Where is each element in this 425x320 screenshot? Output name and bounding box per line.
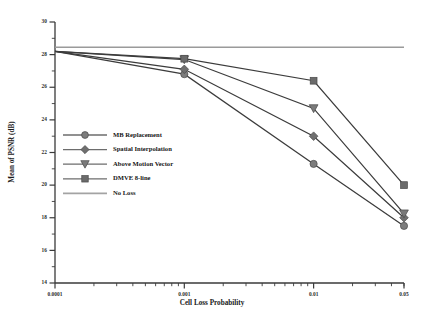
y-tick-label: 20: [42, 181, 48, 187]
chart-container: 141618202224262830 0.00010.0010.010.05 C…: [0, 0, 425, 320]
y-axis-title: Mean of PSNR (dB): [8, 121, 16, 183]
y-tick-label: 16: [42, 247, 48, 253]
marker-square: [310, 77, 317, 84]
y-tick-label: 28: [42, 51, 48, 57]
x-tick-label: 0.0001: [48, 291, 63, 297]
y-tick-label: 22: [42, 149, 48, 155]
legend-label: MB Replacement: [113, 131, 163, 138]
y-tick-label: 14: [42, 279, 48, 285]
marker-square: [82, 176, 88, 182]
legend-label: No Loss: [113, 189, 136, 196]
legend-label: Spatial Interpolation: [113, 145, 172, 152]
x-tick-label: 0.001: [178, 291, 190, 297]
x-tick-label: 0.01: [309, 291, 319, 297]
marker-circle: [400, 222, 407, 229]
x-tick-label: 0.05: [399, 291, 409, 297]
marker-circle: [82, 132, 89, 139]
marker-square: [181, 55, 188, 62]
y-tick-label: 18: [42, 214, 48, 220]
marker-square: [401, 182, 408, 189]
psnr-vs-cell-loss-chart: 141618202224262830 0.00010.0010.010.05 C…: [0, 0, 425, 320]
y-tick-label: 24: [42, 116, 48, 122]
y-tick-label: 26: [42, 83, 48, 89]
x-axis-title: Cell Loss Probability: [180, 299, 245, 307]
marker-circle: [310, 160, 317, 167]
legend-label: Above Motion Vector: [113, 160, 173, 167]
y-tick-label: 30: [42, 18, 48, 24]
legend-label: DMVE 8-line: [113, 174, 151, 181]
